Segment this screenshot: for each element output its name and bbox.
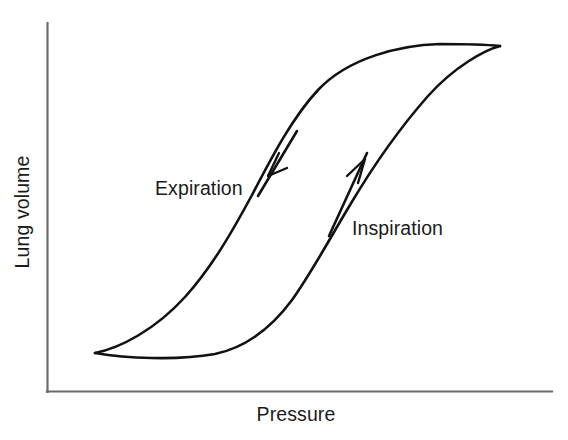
inspiration-label: Inspiration (352, 217, 443, 239)
figure-canvas: Expiration Inspiration Pressure Lung vol… (0, 0, 568, 440)
expiration-label: Expiration (155, 177, 243, 199)
expiration-arrow-shaft (258, 131, 297, 196)
x-axis-label: Pressure (257, 403, 336, 425)
expiration-arrow (258, 131, 297, 196)
lung-hysteresis-figure: Expiration Inspiration Pressure Lung vol… (0, 0, 568, 440)
y-axis-label: Lung volume (11, 156, 33, 269)
inspiration-curve (95, 46, 500, 358)
